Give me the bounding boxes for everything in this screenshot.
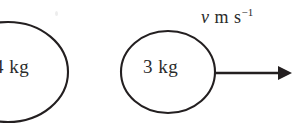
scan-artifact-speck — [55, 11, 58, 16]
velocity-unit: m s — [215, 7, 242, 27]
right-mass-label: 3 kg — [143, 56, 178, 78]
left-mass-label: 4 kg — [0, 56, 29, 78]
velocity-unit-exponent: −1 — [242, 6, 254, 18]
velocity-symbol: v — [201, 7, 210, 27]
velocity-arrow-head — [278, 66, 292, 80]
velocity-label: v m s−1 — [201, 6, 253, 28]
physics-collision-diagram: 4 kg 3 kg v m s−1 — [0, 0, 301, 124]
